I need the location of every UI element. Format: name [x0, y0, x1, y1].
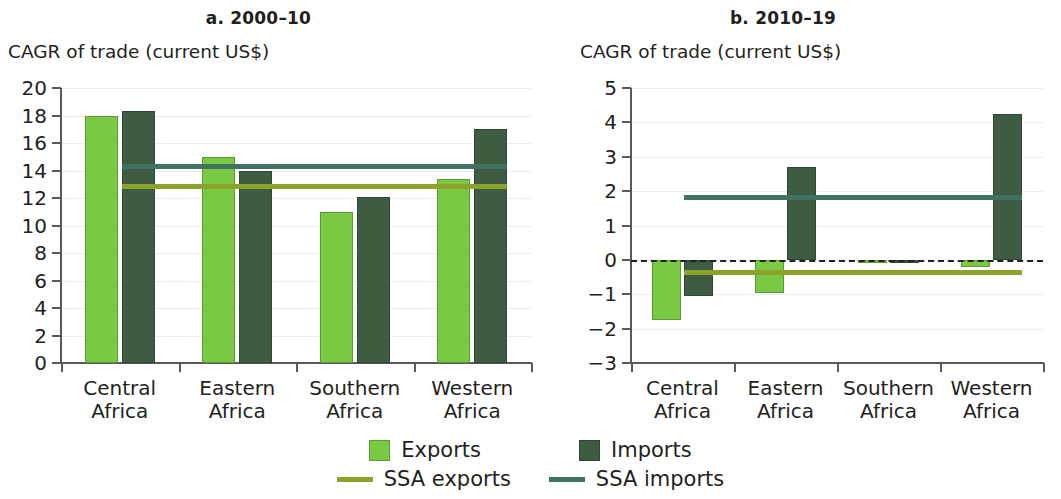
y-axis-tick-label: 20: [22, 78, 47, 98]
panel-b-title: b. 2010–19: [525, 8, 1041, 28]
gridline: [631, 88, 1043, 89]
bar-exports-central-africa: [652, 260, 681, 320]
gridline: [631, 329, 1043, 330]
zero-reference-line: [631, 260, 1043, 262]
bar-exports-southern-africa: [320, 212, 353, 363]
x-axis-tickmark: [296, 363, 298, 372]
legend-swatch-imports-icon: [579, 440, 600, 461]
x-axis-category-label-central-africa: CentralAfrica: [646, 377, 719, 423]
panel-b-axis-caption: CAGR of trade (current US$): [580, 41, 841, 62]
x-axis-category-label-southern-africa: SouthernAfrica: [843, 377, 934, 423]
x-axis-category-label-eastern-africa: EasternAfrica: [199, 377, 275, 423]
x-axis-category-label-central-africa: CentralAfrica: [83, 377, 156, 423]
bar-imports-central-africa: [684, 260, 713, 296]
y-axis-tick-label: −3: [588, 353, 617, 373]
legend-item-exports: Exports: [369, 440, 481, 461]
y-axis-tick-label: 6: [34, 271, 47, 291]
y-axis-tick-label: 1: [604, 216, 617, 236]
y-axis-tick-label: 14: [22, 161, 47, 181]
y-axis-tick-label: 12: [22, 188, 47, 208]
reference-line-ssa-exports: [122, 184, 508, 189]
y-axis-tick-label: 2: [34, 326, 47, 346]
legend-item-imports: Imports: [579, 440, 692, 461]
y-axis-line: [60, 88, 62, 363]
bar-imports-eastern-africa: [239, 171, 272, 364]
gridline: [631, 157, 1043, 158]
legend-dash-ssa-exports-icon: [337, 477, 373, 482]
y-axis-tick-label: 18: [22, 106, 47, 126]
x-axis-tickmark: [734, 363, 736, 372]
bar-exports-eastern-africa: [755, 260, 784, 293]
x-axis-tickmark: [1043, 363, 1045, 372]
y-axis-tick-label: 0: [604, 250, 617, 270]
legend-item-ssa-imports: SSA imports: [549, 469, 724, 490]
bar-imports-eastern-africa: [787, 167, 816, 260]
y-axis-tick-label: 16: [22, 133, 47, 153]
y-axis-tick-label: 5: [604, 78, 617, 98]
y-axis-tick-label: 2: [604, 181, 617, 201]
y-axis-tick-label: −2: [588, 319, 617, 339]
legend-dash-ssa-imports-icon: [549, 477, 585, 482]
y-axis-tick-label: 4: [604, 112, 617, 132]
y-axis-tick-label: 3: [604, 147, 617, 167]
x-axis-tickmark: [531, 363, 533, 372]
panel-a-plot-area: 02468101214161820CentralAfricaEasternAfr…: [61, 88, 531, 363]
legend-row-lines: SSA exports SSA imports: [0, 469, 1061, 490]
reference-line-ssa-imports: [684, 195, 1022, 200]
x-axis-category-label-western-africa: WesternAfrica: [431, 377, 513, 423]
legend-row-bars: Exports Imports: [0, 440, 1061, 461]
x-axis-category-label-southern-africa: SouthernAfrica: [309, 377, 400, 423]
gridline: [631, 122, 1043, 123]
x-axis-tickmark: [179, 363, 181, 372]
y-axis-tick-label: 8: [34, 243, 47, 263]
y-axis-tick-label: 0: [34, 353, 47, 373]
y-axis-tick-label: 10: [22, 216, 47, 236]
x-axis-tickmark: [414, 363, 416, 372]
legend-label-imports: Imports: [611, 440, 692, 461]
bar-imports-central-africa: [122, 111, 155, 363]
legend-label-ssa-imports: SSA imports: [596, 469, 724, 490]
x-axis-category-label-eastern-africa: EasternAfrica: [747, 377, 823, 423]
gridline: [631, 226, 1043, 227]
panel-a: a. 2000–10 CAGR of trade (current US$) 0…: [0, 0, 545, 440]
reference-line-ssa-exports: [684, 270, 1022, 275]
x-axis-tickmark: [837, 363, 839, 372]
y-axis-tick-label: −1: [588, 284, 617, 304]
x-axis-tickmark: [61, 363, 63, 372]
x-axis-tickmark: [631, 363, 633, 372]
legend-label-ssa-exports: SSA exports: [384, 469, 511, 490]
x-axis-category-label-western-africa: WesternAfrica: [950, 377, 1032, 423]
bar-exports-western-africa: [437, 179, 470, 363]
panel-b-plot-area: −3−2−1012345CentralAfricaEasternAfricaSo…: [631, 88, 1043, 363]
bar-imports-southern-africa: [357, 197, 390, 363]
gridline: [631, 191, 1043, 192]
chart-legend: Exports Imports SSA exports SSA imports: [0, 440, 1061, 499]
y-axis-line: [630, 88, 632, 363]
bar-exports-central-africa: [85, 116, 118, 364]
figure-two-panel-bar-chart: a. 2000–10 CAGR of trade (current US$) 0…: [0, 0, 1061, 499]
x-axis-tickmark: [940, 363, 942, 372]
legend-label-exports: Exports: [401, 440, 481, 461]
bar-imports-western-africa: [993, 114, 1022, 260]
gridline: [61, 88, 531, 89]
panel-a-axis-caption: CAGR of trade (current US$): [8, 41, 269, 62]
reference-line-ssa-imports: [122, 164, 508, 169]
panel-b: b. 2010–19 CAGR of trade (current US$) −…: [545, 0, 1061, 440]
panel-a-title: a. 2000–10: [0, 8, 531, 28]
legend-item-ssa-exports: SSA exports: [337, 469, 511, 490]
y-axis-tick-label: 4: [34, 298, 47, 318]
legend-swatch-exports-icon: [369, 440, 390, 461]
